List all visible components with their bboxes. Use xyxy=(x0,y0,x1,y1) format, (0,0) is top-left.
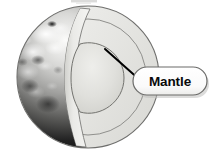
mantle-callout[interactable]: Mantle xyxy=(133,67,209,98)
callout-label: Mantle xyxy=(149,74,192,89)
cropped-label-artifact xyxy=(71,0,97,4)
earth-interior-diagram: Mantle xyxy=(0,0,210,151)
diagram-canvas: Mantle xyxy=(0,0,210,151)
